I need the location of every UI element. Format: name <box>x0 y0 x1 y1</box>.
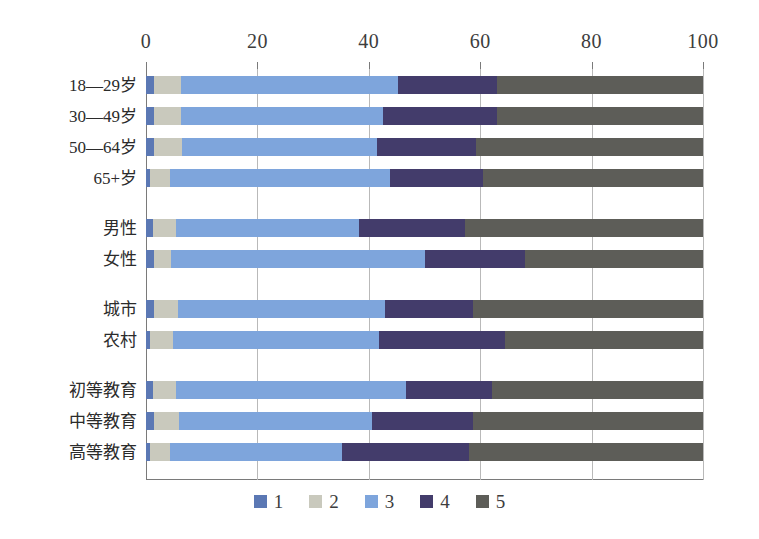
legend-swatch-icon <box>476 495 489 508</box>
bar-segment-4 <box>385 300 473 318</box>
gridline <box>703 68 704 480</box>
bar-segment-5 <box>497 107 703 125</box>
bar-segment-5 <box>497 76 703 94</box>
x-tick-label: 100 <box>687 30 719 53</box>
bar-row <box>146 138 703 156</box>
bar-segment-1 <box>146 138 154 156</box>
bar-segment-2 <box>154 250 171 268</box>
bar-segment-3 <box>176 219 359 237</box>
category-label: 中等教育 <box>69 413 137 430</box>
category-label: 高等教育 <box>69 444 137 461</box>
x-tick-label: 80 <box>581 30 602 53</box>
bar-segment-4 <box>359 219 465 237</box>
chart-legend: 12345 <box>0 492 759 511</box>
bar-segment-2 <box>154 412 179 430</box>
bar-segment-2 <box>150 169 169 187</box>
x-axis-tick <box>592 62 593 69</box>
legend-swatch-icon <box>420 495 433 508</box>
bar-row <box>146 169 703 187</box>
legend-item-5[interactable]: 5 <box>476 492 506 511</box>
bar-segment-5 <box>465 219 703 237</box>
x-axis-tick <box>146 62 147 69</box>
bar-row <box>146 412 703 430</box>
legend-label: 4 <box>440 492 450 511</box>
x-axis-tick-labels: 020406080100 <box>0 0 759 68</box>
bar-segment-3 <box>170 443 342 461</box>
category-label: 初等教育 <box>69 382 137 399</box>
category-axis-labels: 18—29岁30—49岁50—64岁65+岁男性女性城市农村初等教育中等教育高等… <box>0 68 143 480</box>
bar-row <box>146 76 703 94</box>
x-tick-label: 0 <box>141 30 152 53</box>
legend-item-4[interactable]: 4 <box>420 492 450 511</box>
x-tick-label: 60 <box>470 30 491 53</box>
bar-segment-5 <box>483 169 703 187</box>
bar-segment-5 <box>525 250 703 268</box>
bar-segment-3 <box>179 412 371 430</box>
bar-segment-2 <box>150 443 169 461</box>
bar-segment-4 <box>372 412 474 430</box>
bar-segment-2 <box>153 381 176 399</box>
bar-segment-1 <box>146 76 154 94</box>
chart-page: 020406080100 18—29岁30—49岁50—64岁65+岁男性女性城… <box>0 0 759 539</box>
category-label: 城市 <box>103 301 137 318</box>
bar-segment-2 <box>154 76 180 94</box>
plot-area <box>146 68 703 480</box>
bar-segment-5 <box>492 381 703 399</box>
bar-segment-3 <box>182 138 377 156</box>
bar-segment-2 <box>150 331 172 349</box>
bar-segment-4 <box>398 76 497 94</box>
bar-row <box>146 219 703 237</box>
bar-segment-1 <box>146 250 154 268</box>
bar-segment-1 <box>146 300 154 318</box>
legend-item-3[interactable]: 3 <box>365 492 395 511</box>
bar-segment-3 <box>181 76 398 94</box>
bar-segment-1 <box>146 107 154 125</box>
legend-label: 5 <box>496 492 506 511</box>
bar-segment-4 <box>390 169 483 187</box>
bar-segment-3 <box>178 300 386 318</box>
category-label: 女性 <box>103 251 137 268</box>
legend-swatch-icon <box>365 495 378 508</box>
bar-segment-2 <box>153 219 176 237</box>
bar-segment-5 <box>469 443 703 461</box>
bar-segment-5 <box>476 138 703 156</box>
bar-row <box>146 107 703 125</box>
bar-segment-2 <box>154 300 177 318</box>
bar-segment-4 <box>383 107 497 125</box>
bar-segment-4 <box>406 381 492 399</box>
legend-item-1[interactable]: 1 <box>254 492 284 511</box>
bar-row <box>146 250 703 268</box>
bar-row <box>146 300 703 318</box>
bar-row <box>146 443 703 461</box>
category-label: 男性 <box>103 220 137 237</box>
x-tick-label: 40 <box>358 30 379 53</box>
bar-segment-4 <box>377 138 476 156</box>
bar-segment-3 <box>181 107 383 125</box>
x-axis-tick <box>257 62 258 69</box>
legend-swatch-icon <box>309 495 322 508</box>
category-label: 50—64岁 <box>69 139 137 156</box>
bar-segment-1 <box>146 381 153 399</box>
legend-label: 2 <box>329 492 339 511</box>
x-axis-line <box>146 479 703 480</box>
bar-row <box>146 331 703 349</box>
bar-segment-3 <box>171 250 425 268</box>
x-axis-tick <box>480 62 481 69</box>
legend-swatch-icon <box>254 495 267 508</box>
bar-segment-2 <box>154 107 180 125</box>
x-tick-label: 20 <box>247 30 268 53</box>
legend-item-2[interactable]: 2 <box>309 492 339 511</box>
bar-segment-5 <box>505 331 703 349</box>
bar-segment-3 <box>173 331 379 349</box>
bar-segment-4 <box>379 331 505 349</box>
bar-segment-4 <box>425 250 525 268</box>
bar-row <box>146 381 703 399</box>
category-label: 30—49岁 <box>69 108 137 125</box>
bar-segment-5 <box>473 300 702 318</box>
category-label: 农村 <box>103 332 137 349</box>
bar-segment-1 <box>146 219 153 237</box>
legend-label: 3 <box>385 492 395 511</box>
bar-segment-2 <box>154 138 182 156</box>
category-label: 65+岁 <box>93 170 137 187</box>
bar-segment-3 <box>170 169 390 187</box>
